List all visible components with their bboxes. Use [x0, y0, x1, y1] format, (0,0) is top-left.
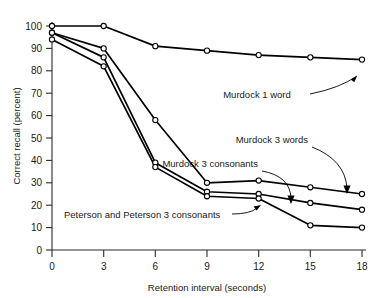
- data-point-peterson-3-consonants: [359, 225, 364, 230]
- data-point-peterson-3-consonants: [308, 223, 313, 228]
- data-point-murdock-3-consonants: [49, 30, 54, 35]
- leader-line-murdock-1-word: [310, 76, 357, 94]
- data-point-murdock-3-words: [359, 191, 364, 196]
- x-tick-label: 18: [356, 261, 368, 272]
- y-tick-label: 30: [31, 177, 43, 188]
- y-tick-label: 60: [31, 110, 43, 121]
- data-point-murdock-3-consonants: [101, 55, 106, 60]
- data-point-murdock-1-word: [101, 23, 106, 28]
- x-axis-title: Retention interval (seconds): [148, 282, 266, 293]
- data-point-peterson-3-consonants: [49, 37, 54, 42]
- chart-figure: 0 10 20 30 40 50 60 70 80 90 100 0 3 6: [0, 0, 388, 298]
- data-point-peterson-3-consonants: [101, 64, 106, 69]
- x-tick-label: 0: [49, 261, 55, 272]
- y-tick-label: 90: [31, 43, 43, 54]
- data-point-murdock-1-word: [359, 57, 364, 62]
- data-point-murdock-3-words: [153, 117, 158, 122]
- data-point-murdock-3-words: [101, 46, 106, 51]
- y-tick-label: 70: [31, 88, 43, 99]
- leader-arrow-murdock-1-word: [351, 76, 357, 82]
- data-point-murdock-3-words: [308, 185, 313, 190]
- annotation-murdock-3-consonants: Murdock 3 consonants: [162, 158, 258, 169]
- data-point-murdock-1-word: [204, 48, 209, 53]
- y-tick-label: 50: [31, 133, 43, 144]
- x-tick-label: 12: [253, 261, 265, 272]
- leader-line-murdock-3-words: [312, 147, 347, 188]
- y-tick-label: 20: [31, 200, 43, 211]
- x-tick-label: 15: [305, 261, 317, 272]
- x-axis-tick-labels: 0 3 6 9 12 15 18: [49, 261, 368, 272]
- data-point-peterson-3-consonants: [256, 196, 261, 201]
- x-tick-label: 9: [204, 261, 210, 272]
- data-point-murdock-3-words: [204, 180, 209, 185]
- annotation-murdock-1-word: Murdock 1 word: [223, 89, 291, 100]
- y-axis-tick-labels: 0 10 20 30 40 50 60 70 80 90 100: [25, 21, 42, 256]
- annotation-murdock-3-words: Murdock 3 words: [236, 134, 309, 145]
- leader-line-peterson-3-consonants: [232, 208, 257, 214]
- y-tick-label: 80: [31, 65, 43, 76]
- x-axis-ticks: [52, 250, 362, 257]
- y-tick-label: 100: [25, 21, 42, 32]
- x-tick-label: 6: [153, 261, 159, 272]
- data-point-murdock-3-consonants: [359, 207, 364, 212]
- data-point-murdock-3-words: [256, 178, 261, 183]
- data-point-murdock-3-consonants: [308, 200, 313, 205]
- x-tick-label: 3: [101, 261, 107, 272]
- data-point-peterson-3-consonants: [153, 165, 158, 170]
- line-chart: 0 10 20 30 40 50 60 70 80 90 100 0 3 6: [0, 0, 388, 298]
- data-point-murdock-1-word: [308, 55, 313, 60]
- y-tick-label: 10: [31, 222, 43, 233]
- y-axis-title: Correct recall (percent): [11, 87, 22, 184]
- leader-line-murdock-3-consonants: [262, 171, 291, 198]
- annotation-peterson-3-consonants: Peterson and Peterson 3 consonants: [64, 209, 221, 220]
- data-point-murdock-1-word: [49, 23, 54, 28]
- data-point-murdock-1-word: [256, 53, 261, 58]
- y-tick-label: 40: [31, 155, 43, 166]
- data-point-peterson-3-consonants: [204, 194, 209, 199]
- y-axis-ticks: [46, 26, 52, 250]
- y-tick-label: 0: [36, 245, 42, 256]
- data-point-murdock-1-word: [153, 44, 158, 49]
